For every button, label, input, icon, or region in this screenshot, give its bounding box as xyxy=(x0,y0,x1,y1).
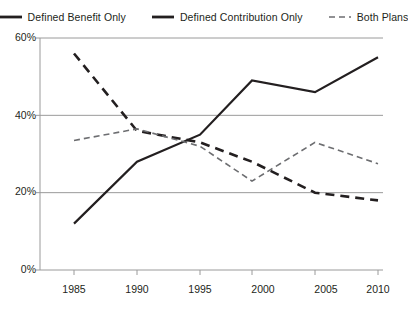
y-axis-tick-label-0: 60% xyxy=(2,31,36,43)
x-axis-tick-label-1985: 1985 xyxy=(54,283,94,295)
x-axis-tick-label-2000: 2000 xyxy=(243,283,283,295)
y-axis-tick-label-2: 20% xyxy=(2,185,36,197)
y-axis-tick-label-3: 0% xyxy=(2,263,36,275)
chart-container: Defined Benefit Only Defined Contributio… xyxy=(0,0,408,309)
y-axis-tick-label-1: 40% xyxy=(2,109,36,121)
x-axis-tick-label-2010: 2010 xyxy=(358,283,398,295)
x-axis-tick-label-1995: 1995 xyxy=(180,283,220,295)
x-axis-tick-label-2005: 2005 xyxy=(306,283,346,295)
series-line-both-plans xyxy=(74,129,378,181)
plot-area xyxy=(0,0,408,309)
series-line-defined-contribution-only xyxy=(74,57,378,223)
x-axis-tick-label-1990: 1990 xyxy=(117,283,157,295)
